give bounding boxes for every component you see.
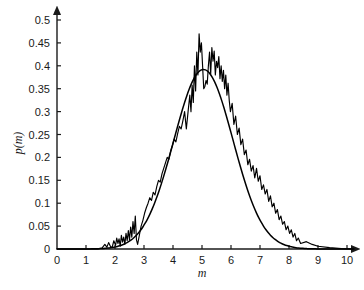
- chart-plot-area: 00.050.10.150.20.250.30.350.40.450.5 p(m…: [0, 0, 364, 290]
- series-empirical-histogram: [57, 34, 353, 249]
- y-tick-label: 0.2: [35, 151, 50, 163]
- x-tick-label: 1: [83, 254, 89, 266]
- x-tick-label: 8: [286, 254, 292, 266]
- series-gaussian-fit: [57, 69, 354, 249]
- x-tick-label: 0: [54, 254, 60, 266]
- y-tick-label: 0.25: [29, 129, 50, 141]
- series-group: [57, 34, 354, 249]
- x-tick-label: 2: [112, 254, 118, 266]
- y-tick-label: 0.3: [35, 106, 50, 118]
- x-axis-title: m: [198, 266, 207, 280]
- y-tick-label: 0.5: [35, 14, 50, 26]
- x-axis-group: 012345678910 m: [54, 245, 353, 280]
- chart-figure: 00.050.10.150.20.250.30.350.40.450.5 p(m…: [0, 0, 364, 290]
- y-tick-label: 0.1: [35, 197, 50, 209]
- x-tick-label: 6: [228, 254, 234, 266]
- y-axis-tick-labels: 00.050.10.150.20.250.30.350.40.450.5: [29, 14, 50, 255]
- y-tick-label: 0.35: [29, 83, 50, 95]
- y-axis-title: p(m): [11, 132, 25, 156]
- y-axis-group: 00.050.10.150.20.250.30.350.40.450.5 p(m…: [11, 14, 61, 255]
- y-tick-label: 0: [44, 243, 50, 255]
- x-tick-label: 5: [199, 254, 205, 266]
- y-tick-label: 0.05: [29, 220, 50, 232]
- x-tick-label: 10: [341, 254, 353, 266]
- y-tick-label: 0.15: [29, 174, 50, 186]
- x-tick-label: 9: [315, 254, 321, 266]
- y-tick-label: 0.45: [29, 37, 50, 49]
- x-axis-tick-labels: 012345678910: [54, 254, 353, 266]
- x-tick-label: 4: [170, 254, 176, 266]
- y-tick-label: 0.4: [35, 60, 50, 72]
- x-tick-label: 7: [257, 254, 263, 266]
- x-tick-label: 3: [141, 254, 147, 266]
